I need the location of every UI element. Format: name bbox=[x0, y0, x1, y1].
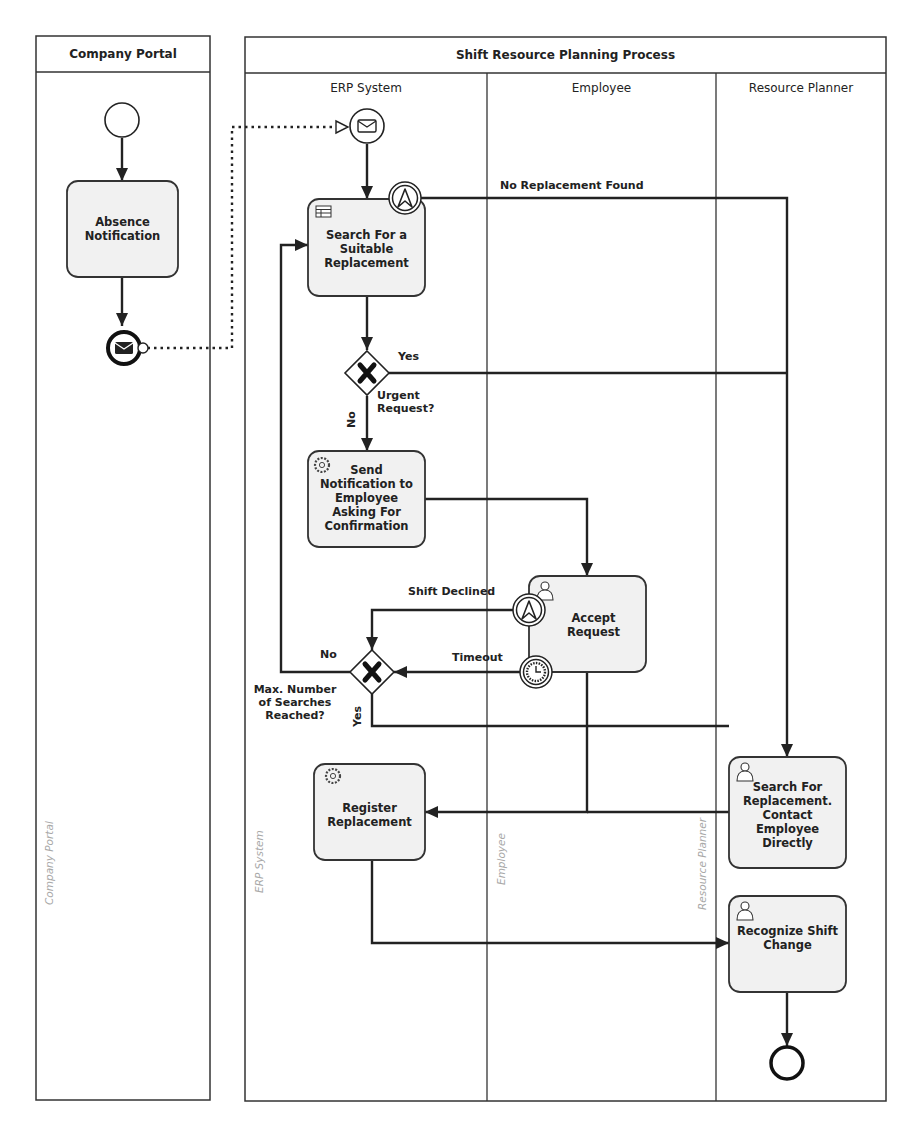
gateway-max-no-label: No bbox=[320, 648, 337, 661]
task-label-search-contact-directly: Search For Replacement. Contact Employee… bbox=[735, 770, 840, 860]
lane-title-erp: ERP System bbox=[245, 73, 487, 103]
flow-register-to-recognize bbox=[372, 860, 729, 943]
flow-send-to-accept bbox=[425, 499, 587, 576]
pool-title-main: Shift Resource Planning Process bbox=[245, 37, 886, 73]
edge-label-no-replacement-found: No Replacement Found bbox=[500, 179, 644, 192]
escalation-boundary-event bbox=[513, 594, 545, 626]
exclusive-gateway-max-searches bbox=[350, 650, 394, 694]
gateway-max-question: Max. Number of Searches Reached? bbox=[249, 683, 341, 722]
escalation-boundary-event bbox=[389, 182, 421, 214]
task-label-absence-notification: Absence Notification bbox=[67, 181, 178, 277]
lane-title-resource-planner: Resource Planner bbox=[716, 73, 886, 103]
flow-gateway2-yes bbox=[372, 694, 729, 726]
gateway-max-yes-label: Yes bbox=[351, 706, 364, 727]
flow-accept-to-register bbox=[425, 672, 587, 812]
lane-side-label-erp: ERP System bbox=[253, 830, 265, 893]
pool-side-label-company-portal: Company Portal bbox=[43, 821, 55, 905]
edge-label-shift-declined: Shift Declined bbox=[408, 585, 495, 598]
lane-side-label-employee: Employee bbox=[495, 833, 507, 885]
task-label-search-replacement: Search For a Suitable Replacement bbox=[316, 213, 417, 285]
edge-label-timeout: Timeout bbox=[452, 651, 503, 664]
task-label-recognize-shift-change: Recognize Shift Change bbox=[735, 910, 840, 966]
lane-title-employee: Employee bbox=[487, 73, 716, 103]
flow-shift-declined bbox=[372, 610, 513, 650]
message-end-event bbox=[108, 332, 148, 364]
gateway-urgent-yes-label: Yes bbox=[398, 350, 419, 363]
task-label-send-notification: Send Notification to Employee Asking For… bbox=[312, 455, 421, 541]
message-start-event bbox=[350, 109, 384, 143]
task-label-accept-request: Accept Request bbox=[545, 590, 642, 660]
gateway-urgent-question: Urgent Request? bbox=[377, 389, 437, 415]
timer-boundary-event bbox=[520, 656, 552, 688]
pool-title-company-portal: Company Portal bbox=[36, 36, 210, 72]
gateway-urgent-no-label: No bbox=[345, 411, 358, 428]
lane-side-label-resource-planner: Resource Planner bbox=[696, 818, 708, 910]
end-event bbox=[771, 1047, 803, 1079]
start-event bbox=[105, 103, 139, 137]
task-label-register-replacement: Register Replacement bbox=[318, 780, 421, 850]
